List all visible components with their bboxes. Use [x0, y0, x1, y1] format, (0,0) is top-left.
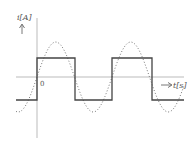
- y-axis-label: i[A]: [17, 13, 32, 22]
- x-axis-arrow-icon: [161, 83, 172, 88]
- y-axis-arrow-icon: [20, 24, 25, 34]
- waveform-diagram: i[A] t[s] 0: [0, 0, 196, 148]
- x-axis-label: t[s]: [173, 81, 187, 90]
- origin-label: 0: [40, 80, 44, 88]
- square-wave: [16, 58, 184, 100]
